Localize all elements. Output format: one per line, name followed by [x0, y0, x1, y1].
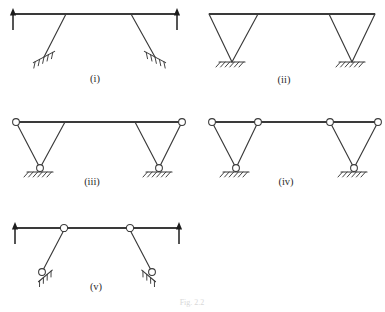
ground-hatch-tick	[238, 172, 243, 177]
hinge-joint	[39, 269, 46, 276]
case-ii	[209, 14, 375, 67]
ground-hatch-tick	[42, 172, 47, 177]
ground-hatch-tick	[343, 172, 348, 177]
ground-hatch-tick	[24, 172, 29, 177]
frame-leg	[209, 14, 232, 62]
ground-hatch-tick	[216, 62, 221, 67]
hinge-joint	[179, 119, 186, 126]
figure-canvas: (i)(ii)(iii)(iv)(v) Fig. 2.2	[0, 0, 385, 312]
frame-leg	[354, 122, 378, 168]
ground-hatch-tick	[225, 62, 230, 67]
hinge-joint	[37, 165, 44, 172]
hinge-joint	[149, 269, 156, 276]
hinge-joint	[327, 119, 334, 126]
ground-hatch-tick	[356, 172, 361, 177]
ground-hatch-tick	[148, 172, 153, 177]
hinge-joint	[60, 224, 67, 231]
case-iv	[209, 119, 382, 177]
ground-hatch-tick	[225, 172, 230, 177]
case-label-1: (i)	[90, 73, 100, 85]
hinge-joint	[209, 119, 216, 126]
hinge-joint	[255, 119, 262, 126]
hinge-joint	[375, 119, 382, 126]
ground-hatch-tick	[143, 172, 148, 177]
load-arrow-head	[12, 222, 18, 230]
ground-hatch-tick	[352, 172, 357, 177]
case-label-2: (ii)	[278, 74, 291, 86]
frame-leg	[40, 122, 65, 168]
ground-hatch-tick	[230, 62, 235, 67]
ground-hatch-tick	[243, 172, 248, 177]
frame-leg	[42, 230, 64, 272]
ground-hatch-tick	[341, 62, 346, 67]
frame-leg	[330, 122, 354, 168]
ground-hatch-tick	[161, 172, 166, 177]
case-iii	[13, 119, 186, 177]
case-label-4: (iv)	[278, 176, 294, 188]
frame-leg	[232, 14, 258, 62]
ground-hatch-tick	[361, 172, 366, 177]
load-arrow-head	[176, 222, 182, 230]
ground-hatch-tick	[47, 172, 52, 177]
ground-hatch-tick	[166, 172, 171, 177]
ground-hatch-tick	[338, 172, 343, 177]
ground-hatch-tick	[359, 62, 364, 67]
frame-leg	[135, 122, 159, 168]
hinge-joint	[126, 224, 133, 231]
ground-hatch-tick	[221, 62, 226, 67]
cases-layer	[10, 8, 382, 287]
frame-leg	[131, 14, 155, 57]
frame-leg	[16, 122, 40, 168]
case-i	[10, 8, 180, 68]
ground-hatch-tick	[347, 172, 352, 177]
ground-hatch-tick	[345, 62, 350, 67]
ground-hatch-tick	[336, 62, 341, 67]
hinge-joint	[351, 165, 358, 172]
ground-hatch-tick	[234, 62, 239, 67]
ground-hatch-tick	[350, 62, 355, 67]
load-arrow-head	[10, 8, 16, 16]
ground-hatch-tick	[229, 172, 234, 177]
frame-leg	[44, 14, 66, 57]
ground-hatch-tick	[157, 172, 162, 177]
figure-caption: Fig. 2.2	[180, 298, 205, 307]
load-arrow-head	[174, 8, 180, 16]
ground-hatch-tick	[33, 172, 38, 177]
labels-layer: (i)(ii)(iii)(iv)(v)	[84, 73, 294, 293]
ground-hatch-tick	[234, 172, 239, 177]
case-label-3: (iii)	[84, 176, 100, 188]
hinge-joint	[13, 119, 20, 126]
case-v	[12, 222, 182, 287]
ground-hatch-tick	[220, 172, 225, 177]
hinge-joint	[156, 165, 163, 172]
frame-leg	[329, 14, 352, 62]
frame-leg	[159, 122, 182, 168]
ground-hatch-tick	[354, 62, 359, 67]
case-label-5: (v)	[90, 281, 103, 293]
hinge-joint	[233, 165, 240, 172]
ground-hatch-tick	[38, 172, 43, 177]
ground-hatch-tick	[152, 172, 157, 177]
frame-leg	[212, 122, 236, 168]
structural-frame-figure: (i)(ii)(iii)(iv)(v) Fig. 2.2	[0, 0, 385, 312]
frame-leg	[130, 230, 152, 272]
ground-hatch-tick	[239, 62, 244, 67]
frame-leg	[236, 122, 258, 168]
ground-hatch-tick	[29, 172, 33, 177]
frame-leg	[352, 14, 375, 62]
